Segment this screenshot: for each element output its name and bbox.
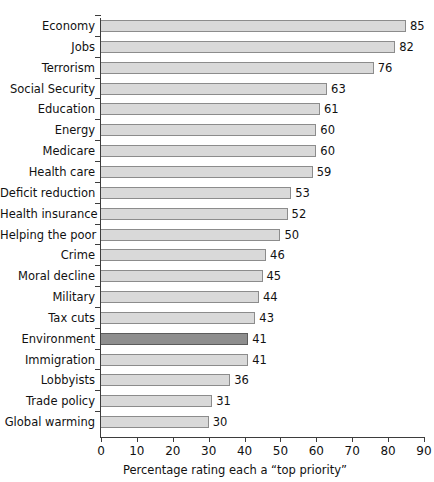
bar-value-label: 61 <box>324 103 339 115</box>
category-label: Military <box>0 291 95 303</box>
bar-value-label: 44 <box>263 291 278 303</box>
bar-value-label: 76 <box>378 62 393 74</box>
bar-chart: EconomyJobsTerrorismSocial SecurityEduca… <box>0 0 434 482</box>
bar-value-label: 53 <box>295 187 310 199</box>
x-axis-tick-label: 80 <box>368 444 408 458</box>
bar-value-label: 41 <box>252 333 267 345</box>
x-axis-tick-label: 40 <box>225 444 265 458</box>
x-axis-tick <box>101 437 102 442</box>
category-label: Immigration <box>0 354 95 366</box>
x-axis-tick-label: 70 <box>332 444 372 458</box>
category-label: Medicare <box>0 145 95 157</box>
x-axis-tick <box>424 437 425 442</box>
bar-health-care <box>101 166 313 178</box>
x-axis-tick <box>173 437 174 442</box>
x-axis-tick <box>316 437 317 442</box>
category-label: Health care <box>0 166 95 178</box>
category-label: Tax cuts <box>0 312 95 324</box>
category-label: Global warming <box>0 416 95 428</box>
x-axis-tick <box>137 437 138 442</box>
category-label: Jobs <box>0 41 95 53</box>
x-axis-line <box>101 437 425 438</box>
bar-lobbyists <box>101 374 230 386</box>
bar-social-security <box>101 83 327 95</box>
bar-value-label: 63 <box>331 83 346 95</box>
bar-energy <box>101 124 316 136</box>
bar-trade-policy <box>101 395 212 407</box>
x-axis-tick-label: 30 <box>189 444 229 458</box>
bar-tax-cuts <box>101 312 255 324</box>
category-label: Environment <box>0 333 95 345</box>
bar-value-label: 50 <box>284 229 299 241</box>
x-axis-tick <box>209 437 210 442</box>
bar-value-label: 82 <box>399 41 414 53</box>
bar-education <box>101 103 320 115</box>
bar-crime <box>101 249 266 261</box>
category-label: Trade policy <box>0 395 95 407</box>
category-label: Health insurance <box>0 208 95 220</box>
bar-value-label: 45 <box>267 270 282 282</box>
x-axis-tick <box>388 437 389 442</box>
category-label: Education <box>0 103 95 115</box>
bar-value-label: 46 <box>270 249 285 261</box>
bar-value-label: 30 <box>213 416 228 428</box>
category-label: Lobbyists <box>0 374 95 386</box>
bar-deficit-reduction <box>101 187 291 199</box>
bar-value-label: 59 <box>317 166 332 178</box>
category-label: Helping the poor <box>0 229 95 241</box>
category-label-layer: EconomyJobsTerrorismSocial SecurityEduca… <box>0 20 95 437</box>
category-label: Deficit reduction <box>0 187 95 199</box>
bar-environment <box>101 333 248 345</box>
x-axis-tick <box>280 437 281 442</box>
bar-medicare <box>101 145 316 157</box>
x-axis-tick-label: 10 <box>117 444 157 458</box>
bar-value-label: 60 <box>320 124 335 136</box>
bar-value-label: 43 <box>259 312 274 324</box>
bar-value-label: 36 <box>234 374 249 386</box>
x-axis-tick-label: 50 <box>260 444 300 458</box>
category-label: Terrorism <box>0 62 95 74</box>
x-axis-tick-label: 60 <box>296 444 336 458</box>
category-label: Moral decline <box>0 270 95 282</box>
bar-moral-decline <box>101 270 263 282</box>
x-axis-tick-label: 20 <box>153 444 193 458</box>
x-axis-title: Percentage rating each a “top priority” <box>0 463 434 477</box>
bar-immigration <box>101 354 248 366</box>
x-axis-tick <box>352 437 353 442</box>
bar-value-label: 31 <box>216 395 231 407</box>
bar-helping-the-poor <box>101 229 280 241</box>
bar-global-warming <box>101 416 209 428</box>
bar-value-label: 85 <box>410 20 425 32</box>
bar-jobs <box>101 41 395 53</box>
category-label: Economy <box>0 20 95 32</box>
x-axis-tick-label: 0 <box>81 444 121 458</box>
x-axis-tick <box>245 437 246 442</box>
category-label: Social Security <box>0 83 95 95</box>
bar-health-insurance <box>101 208 288 220</box>
bar-military <box>101 291 259 303</box>
category-label: Crime <box>0 249 95 261</box>
plot-area: 8582766361606059535250464544434141363130 <box>101 20 424 437</box>
bar-value-label: 52 <box>292 208 307 220</box>
bar-economy <box>101 20 406 32</box>
bar-value-label: 60 <box>320 145 335 157</box>
x-axis-tick-label: 90 <box>404 444 434 458</box>
bar-terrorism <box>101 62 374 74</box>
y-axis-tick <box>95 15 101 16</box>
category-label: Energy <box>0 124 95 136</box>
bar-value-label: 41 <box>252 354 267 366</box>
